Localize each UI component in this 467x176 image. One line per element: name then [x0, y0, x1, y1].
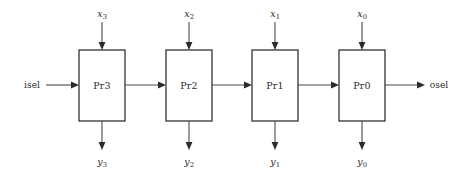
arrow-head-pr1-to-pr0 — [331, 82, 339, 89]
input-signal-sub-x3: 3 — [103, 13, 107, 21]
arrow-head-pr1-to-y1 — [272, 142, 279, 150]
output-signal-base-y1: y — [270, 156, 275, 167]
input-signal-base-x3: x — [97, 8, 102, 19]
output-signal-sub-y0: 0 — [363, 161, 367, 169]
arrow-head-x2-into-pr2 — [186, 42, 193, 50]
stage-label-pr2: Pr2 — [180, 80, 198, 91]
stage-label-pr3: Pr3 — [93, 80, 111, 91]
arrow-head-pr0-to-osel — [417, 82, 425, 89]
output-signal-sub-y1: 1 — [276, 161, 280, 169]
output-signal-base-y3: y — [97, 156, 102, 167]
arrow-head-x3-into-pr3 — [99, 42, 106, 50]
arrow-head-x0-into-pr0 — [359, 42, 366, 50]
input-signal-base-x1: x — [270, 8, 275, 19]
output-signal-sub-y2: 2 — [190, 161, 194, 169]
input-signal-sub-x0: 0 — [363, 13, 367, 21]
arrow-head-pr2-to-y2 — [186, 142, 193, 150]
arrow-head-x1-into-pr1 — [272, 42, 279, 50]
output-port-label-osel: osel — [430, 80, 449, 90]
input-signal-base-x2: x — [184, 8, 189, 19]
input-signal-sub-x1: 1 — [276, 13, 280, 21]
input-signal-sub-x2: 2 — [190, 13, 194, 21]
arrow-head-pr2-to-pr1 — [244, 82, 252, 89]
output-signal-label-y2: y2 — [184, 156, 194, 167]
arrow-head-isel-to-pr3 — [71, 82, 79, 89]
arrow-head-pr3-to-pr2 — [158, 82, 166, 89]
diagram-svg — [0, 0, 467, 176]
input-signal-label-x3: x3 — [97, 8, 107, 19]
output-signal-base-y2: y — [184, 156, 189, 167]
stage-label-pr0: Pr0 — [353, 80, 371, 91]
arrow-head-pr3-to-y3 — [99, 142, 106, 150]
input-port-label-isel: isel — [24, 80, 40, 90]
output-signal-label-y1: y1 — [270, 156, 280, 167]
arrow-head-pr0-to-y0 — [359, 142, 366, 150]
input-signal-label-x1: x1 — [270, 8, 280, 19]
output-signal-label-y3: y3 — [97, 156, 107, 167]
input-signal-label-x2: x2 — [184, 8, 194, 19]
input-signal-label-x0: x0 — [357, 8, 367, 19]
diagram-canvas: Pr3 Pr2 Pr1 Pr0 isel osel x3 x2 x1 x0 y3… — [0, 0, 467, 176]
output-signal-sub-y3: 3 — [103, 161, 107, 169]
output-signal-label-y0: y0 — [357, 156, 367, 167]
output-signal-base-y0: y — [357, 156, 362, 167]
stage-label-pr1: Pr1 — [266, 80, 284, 91]
input-signal-base-x0: x — [357, 8, 362, 19]
